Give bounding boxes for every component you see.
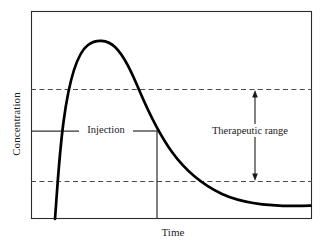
y-axis-label: Concentration — [9, 0, 23, 248]
x-axis-label: Time — [133, 226, 213, 238]
plot-frame — [32, 12, 312, 219]
injection-label: Injection — [79, 124, 133, 135]
pharmacokinetics-chart: Concentration Time Injection Therapeutic… — [0, 0, 332, 248]
therapeutic-range-label: Therapeutic range — [196, 124, 304, 137]
